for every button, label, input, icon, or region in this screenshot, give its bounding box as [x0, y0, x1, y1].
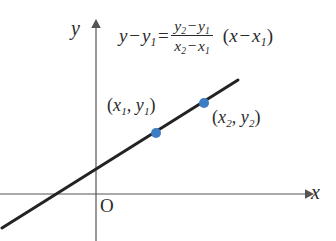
point-slope-equation: y−y1= y2−y1 x2−x1 (x−x1) — [119, 18, 273, 53]
point-1-label: (x1, y1) — [107, 96, 156, 114]
denominator-right-var: x — [198, 37, 205, 54]
denominator-right-subscript: 1 — [205, 45, 210, 56]
point-2-close-paren: ) — [255, 107, 261, 127]
point-2-comma: , — [232, 107, 237, 127]
x-axis-label: x — [311, 182, 320, 202]
tail-var: x — [229, 25, 237, 46]
equation-tail-factor: (x−x1) — [223, 26, 273, 45]
equation-lhs-var: y — [119, 25, 127, 46]
equation-lhs-subscript: 1 — [151, 36, 157, 49]
y-axis-arrowhead — [91, 19, 101, 28]
point-marker-1 — [151, 128, 161, 138]
numerator-right-var: y — [198, 17, 205, 34]
equation-lhs-minus: − — [129, 25, 140, 46]
origin-label: O — [100, 196, 114, 215]
tail-sub-var: x — [252, 25, 260, 46]
equation-lhs-sub-var: y — [142, 25, 150, 46]
point-1-y-subscript: 1 — [144, 105, 150, 117]
point-marker-2 — [199, 98, 209, 108]
point-2-label: (x2, y2) — [212, 108, 261, 126]
point-1-y-var: y — [136, 95, 144, 115]
numerator-left-subscript: 2 — [181, 25, 186, 36]
tail-subscript: 1 — [261, 36, 267, 49]
tail-close-paren: ) — [267, 25, 273, 46]
point-2-y-var: y — [241, 107, 249, 127]
equation-equals-sign: = — [158, 25, 169, 46]
tail-minus: − — [240, 25, 251, 46]
slope-denominator: x2−x1 — [171, 35, 213, 54]
equation-left-side: y−y1= — [119, 26, 170, 45]
point-1-close-paren: ) — [150, 95, 156, 115]
line-equation-figure: y−y1= y2−y1 x2−x1 (x−x1) y x O (x1, y1) … — [0, 0, 336, 241]
point-1-x-subscript: 1 — [121, 105, 127, 117]
denominator-minus: − — [188, 37, 197, 54]
slope-numerator: y2−y1 — [171, 18, 213, 35]
y-axis-label: y — [71, 18, 80, 38]
point-2-x-subscript: 2 — [226, 117, 232, 129]
point-1-comma: , — [127, 95, 132, 115]
point-1-x-var: x — [113, 95, 121, 115]
numerator-minus: − — [188, 17, 197, 34]
point-2-x-var: x — [218, 107, 226, 127]
denominator-left-subscript: 2 — [181, 45, 186, 56]
point-2-y-subscript: 2 — [249, 117, 255, 129]
numerator-right-subscript: 1 — [205, 25, 210, 36]
slope-fraction: y2−y1 x2−x1 — [171, 18, 213, 53]
